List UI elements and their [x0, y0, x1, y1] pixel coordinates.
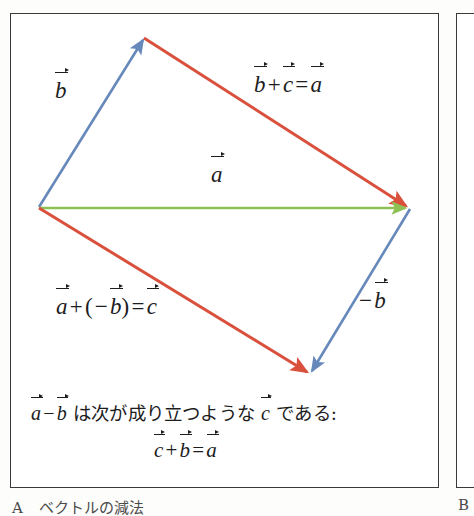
vector-arrow-b: b	[110, 295, 122, 318]
vector-arrow-b: b	[254, 73, 266, 96]
figure-letter-a: A	[12, 499, 23, 516]
label-minus-b: −b	[357, 289, 386, 312]
vector-arrow-c: c	[283, 73, 293, 96]
equals-operator: =	[129, 294, 146, 319]
vector-arrow-c: c	[147, 295, 157, 318]
vector-arrow-c: c	[154, 440, 164, 461]
label-vector-b: b	[55, 79, 67, 102]
vector-arrow-a: a	[31, 403, 41, 423]
explanation-equation: c+b=a	[154, 440, 217, 461]
figure-root: b b+c=a a −b a+(−b)=c a−b は次が成り立つような c で…	[0, 0, 474, 516]
vector-arrow-b: b	[180, 440, 191, 461]
vector-arrow-a: a	[310, 73, 322, 96]
vector-arrow-a: a	[211, 163, 223, 186]
figure-caption-a-text: ベクトルの減法	[39, 499, 144, 516]
vector-arrow-b: b	[55, 79, 67, 102]
minus-operator: −	[357, 288, 374, 313]
label-vector-a: a	[211, 163, 223, 186]
minus-operator: −	[41, 402, 56, 424]
vector-arrow-a: a	[56, 295, 68, 318]
vector-arrow-b: b	[57, 403, 67, 423]
vector-b-plus-c-line	[144, 38, 406, 206]
vector-arrow-b: b	[374, 289, 386, 312]
vector-a-plus-minus-b-line	[39, 208, 307, 372]
label-b-plus-c-equals-a: b+c=a	[254, 73, 322, 96]
figure-letter-b: B	[458, 496, 469, 514]
equals-operator: =	[293, 72, 310, 97]
figure-caption-a: Aベクトルの減法	[12, 496, 144, 516]
label-a-plus-minus-b-equals-c: a+(−b)=c	[56, 295, 157, 318]
vector-b-line	[39, 40, 143, 207]
explanation-text-tail: である:	[270, 403, 337, 424]
plus-operator: +	[266, 72, 283, 97]
plus-operator: +	[164, 438, 180, 462]
explanation-text-middle: は次が成り立つような	[67, 403, 261, 424]
open-paren: (	[85, 294, 93, 319]
vector-arrow-c: c	[261, 403, 270, 423]
panel-b-frame	[456, 13, 474, 488]
equals-operator: =	[190, 438, 206, 462]
minus-operator: −	[93, 294, 110, 319]
vector-arrow-a: a	[206, 440, 217, 461]
explanation-line-1: a−b は次が成り立つような c である:	[31, 403, 337, 423]
figure-caption-b: B	[458, 496, 469, 514]
plus-operator: +	[68, 294, 85, 319]
